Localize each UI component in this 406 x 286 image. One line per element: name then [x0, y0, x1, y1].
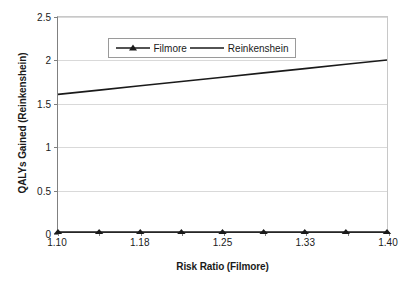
legend-item-filmore[interactable]: Filmore: [116, 43, 187, 54]
x-axis-title: Risk Ratio (Filmore): [57, 261, 388, 272]
chart-legend: FilmoreReinkenshein: [108, 38, 296, 58]
x-axis-label: 1.33: [296, 237, 315, 248]
y-axis-title: QALYs Gained (Reinkenshein): [11, 8, 33, 238]
series-line-reinkenshein: [58, 60, 387, 94]
x-axis-label: 1.40: [378, 237, 397, 248]
legend-swatch-line-triangle-icon: [116, 43, 150, 53]
x-axis-label: 1.10: [47, 237, 66, 248]
plot-area: 00.511.522.5 FilmoreReinkenshein: [57, 16, 388, 233]
y-axis-label: 2: [45, 55, 51, 66]
y-axis-label: 1.5: [37, 98, 51, 109]
x-axis-label: 1.25: [213, 237, 232, 248]
x-axis-label: 1.18: [130, 237, 149, 248]
y-axis-label: 0.5: [37, 185, 51, 196]
y-axis-label: 2.5: [37, 12, 51, 23]
legend-item-reinkenshein[interactable]: Reinkenshein: [190, 43, 289, 54]
chart-container: QALYs Gained (Reinkenshein) 00.511.522.5…: [0, 0, 406, 286]
legend-label: Reinkenshein: [228, 43, 289, 54]
legend-label: Filmore: [154, 43, 187, 54]
legend-swatch-line-icon: [190, 43, 224, 53]
y-axis-label: 1: [45, 142, 51, 153]
